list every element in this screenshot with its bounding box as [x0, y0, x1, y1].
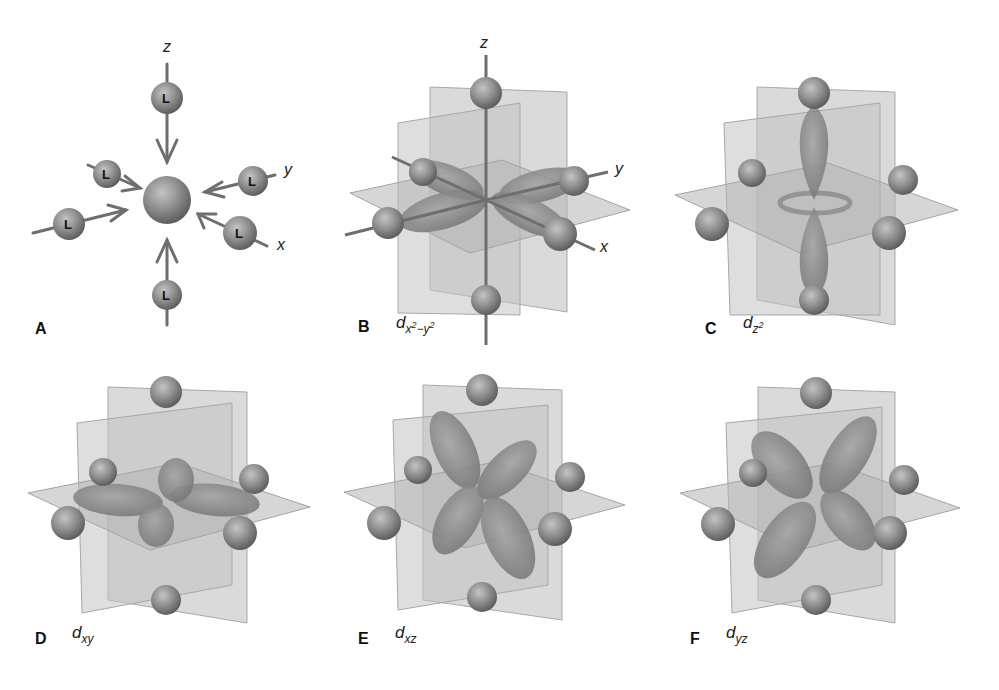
panel-f: F dyz [660, 360, 999, 690]
orbital-label-dz2: dz2 [743, 313, 763, 336]
orbital-label-dxy: dxy [72, 623, 93, 646]
axis-label-x: x [277, 236, 285, 254]
orbital-label-dxz: dxz [395, 623, 416, 646]
panel-label: D [35, 630, 47, 648]
orbital-label-dyz: dyz [726, 623, 747, 646]
orbital-dxy-diagram [0, 360, 330, 690]
axis-label-z: z [480, 34, 488, 52]
panel-label: F [690, 630, 700, 648]
svg-text:L: L [162, 91, 170, 106]
metal-ion-sphere [143, 176, 191, 224]
panel-a: L L L L L L z y x A [0, 0, 320, 360]
axis-label-y: y [284, 161, 292, 179]
panel-label: E [358, 630, 369, 648]
orbital-label-dx2-y2: dx2−y2 [396, 313, 435, 336]
panel-b: z y x B dx2−y2 [320, 0, 660, 360]
panel-e: E dxz [330, 360, 660, 690]
panel-c: C dz2 [660, 0, 999, 360]
axis-label-x: x [600, 238, 608, 256]
panel-label: C [705, 320, 717, 338]
panel-label: A [35, 320, 47, 338]
orbital-dx2-y2-diagram [320, 0, 660, 360]
orbital-dxz-diagram [330, 360, 660, 690]
panel-d: D dxy [0, 360, 330, 690]
ligand-approach-diagram: L L L L L L [0, 0, 320, 360]
svg-text:L: L [162, 288, 170, 303]
svg-text:L: L [248, 174, 256, 189]
svg-text:L: L [64, 217, 72, 232]
axis-label-z: z [163, 38, 171, 56]
axis-label-y: y [615, 160, 623, 178]
svg-text:L: L [102, 167, 110, 182]
svg-text:L: L [235, 226, 243, 241]
orbital-dyz-diagram [660, 360, 999, 690]
panel-label: B [358, 318, 370, 336]
orbital-dz2-diagram [660, 0, 999, 360]
